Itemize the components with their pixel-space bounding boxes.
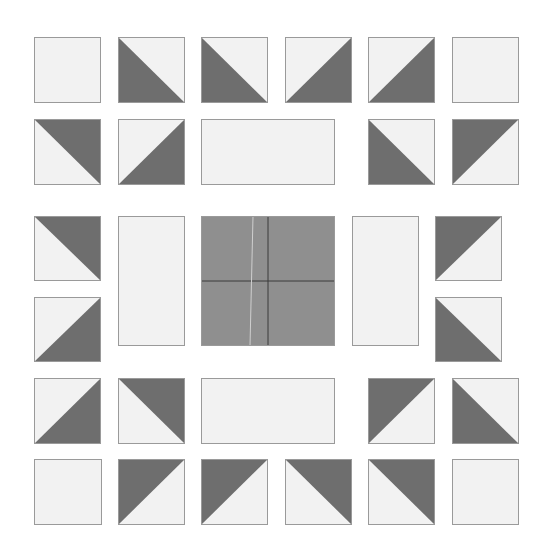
quilt-piece-hst: [368, 119, 435, 185]
quilt-block-canvas: [0, 0, 546, 554]
quilt-piece-rect: [201, 119, 335, 185]
quilt-piece-hst: [118, 119, 185, 185]
quilt-piece-hst: [118, 37, 185, 103]
quilt-piece-hst: [118, 378, 185, 444]
quilt-piece-hst: [285, 37, 352, 103]
quilt-piece-hst: [118, 459, 185, 525]
quilt-piece-square: [34, 459, 102, 525]
quilt-piece-rect: [352, 216, 419, 346]
quilt-piece-hst: [201, 37, 268, 103]
quilt-piece-rect: [118, 216, 185, 346]
quilt-piece-hst: [34, 119, 101, 185]
quilt-piece-hst: [368, 378, 435, 444]
quilt-piece-hst: [368, 459, 435, 525]
quilt-piece-hst: [452, 119, 519, 185]
quilt-piece-hst: [452, 378, 519, 444]
quilt-piece-hst: [201, 459, 268, 525]
quilt-piece-hst: [34, 297, 101, 362]
quilt-piece-center: [201, 216, 335, 346]
quilt-piece-square: [452, 459, 519, 525]
quilt-piece-square: [34, 37, 101, 103]
quilt-piece-hst: [435, 216, 502, 281]
quilt-piece-hst: [285, 459, 352, 525]
quilt-piece-hst: [368, 37, 435, 103]
quilt-piece-hst: [34, 378, 101, 444]
quilt-piece-square: [452, 37, 519, 103]
quilt-piece-hst: [34, 216, 101, 281]
quilt-piece-rect: [201, 378, 335, 444]
quilt-piece-hst: [435, 297, 502, 362]
